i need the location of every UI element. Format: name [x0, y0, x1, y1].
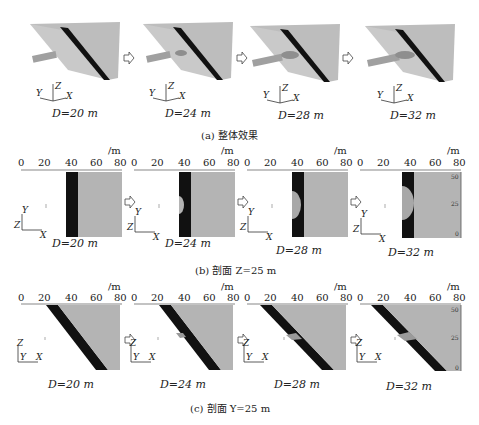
- axis-triad-icon: Z Y X: [377, 84, 417, 106]
- caption-b: (b) 剖面 Z=25 m: [195, 262, 276, 277]
- svg-text:40: 40: [178, 292, 191, 303]
- svg-text:Y: Y: [20, 352, 27, 362]
- svg-text:0: 0: [131, 292, 137, 303]
- panel-label: D=20 m: [52, 107, 98, 120]
- svg-text:0: 0: [244, 292, 250, 303]
- svg-text:0: 0: [455, 230, 459, 237]
- svg-text:25: 25: [451, 334, 459, 341]
- svg-text:Y: Y: [149, 88, 156, 98]
- panel-label: D=24 m: [165, 237, 211, 250]
- svg-text:/m: /m: [221, 281, 234, 292]
- svg-text:25: 25: [451, 200, 459, 207]
- svg-text:80: 80: [227, 157, 240, 168]
- svg-text:Y: Y: [361, 209, 368, 219]
- svg-text:X: X: [152, 232, 160, 242]
- panel-label: D=32 m: [388, 246, 434, 259]
- svg-text:60: 60: [429, 292, 442, 303]
- svg-text:80: 80: [453, 292, 466, 303]
- svg-text:Z: Z: [352, 224, 360, 234]
- panel-label: D=20 m: [52, 237, 98, 250]
- svg-text:Y: Y: [246, 352, 253, 362]
- svg-text:Z: Z: [129, 338, 137, 348]
- svg-text:Y: Y: [248, 207, 255, 217]
- svg-text:Y: Y: [359, 352, 366, 362]
- svg-text:/m: /m: [447, 145, 460, 156]
- panel-label: D=32 m: [390, 109, 436, 122]
- svg-text:X: X: [292, 93, 300, 103]
- svg-text:X: X: [265, 232, 273, 242]
- panel-label: D=24 m: [160, 378, 206, 391]
- svg-text:Y: Y: [263, 90, 270, 100]
- panel-label: D=28 m: [276, 244, 322, 257]
- svg-text:Z: Z: [239, 222, 247, 232]
- svg-text:80: 80: [114, 157, 127, 168]
- caption-a: (a) 整体效果: [201, 127, 258, 142]
- svg-text:20: 20: [377, 292, 390, 303]
- panel-label: D=32 m: [386, 380, 432, 393]
- svg-text:80: 80: [453, 157, 466, 168]
- svg-text:20: 20: [377, 157, 390, 168]
- arrow-right-icon: [350, 195, 362, 209]
- svg-text:20: 20: [38, 157, 51, 168]
- row-c-panel-2: /m 0 20 40 60 80: [131, 285, 241, 385]
- svg-text:X: X: [39, 230, 47, 240]
- axis-triad-icon: Z Y X: [263, 84, 303, 106]
- svg-text:50: 50: [451, 173, 459, 180]
- caption-c: (c) 剖面 Y=25 m: [190, 400, 270, 415]
- svg-text:40: 40: [404, 157, 417, 168]
- svg-text:Z: Z: [281, 83, 289, 93]
- svg-text:80: 80: [340, 157, 353, 168]
- svg-text:20: 20: [38, 292, 51, 303]
- svg-text:Y: Y: [377, 90, 384, 100]
- svg-text:0: 0: [357, 157, 363, 168]
- svg-text:80: 80: [114, 292, 127, 303]
- svg-text:20: 20: [264, 157, 277, 168]
- svg-text:X: X: [406, 93, 414, 103]
- panel-label: D=24 m: [165, 107, 211, 120]
- svg-text:0: 0: [244, 157, 250, 168]
- axis-triad-icon: Z Y X: [149, 82, 189, 104]
- svg-text:60: 60: [429, 157, 442, 168]
- svg-text:/m: /m: [334, 281, 347, 292]
- svg-text:/m: /m: [108, 281, 121, 292]
- axis-2d-icon: Y Z X: [240, 210, 276, 238]
- axis-2d-icon: Z Y X: [14, 340, 50, 368]
- row-c-panel-4: /m 0 20 40 60 80 50 25 0: [357, 285, 479, 385]
- svg-text:/m: /m: [334, 145, 347, 156]
- svg-text:Z: Z: [355, 338, 363, 348]
- svg-text:Z: Z: [13, 220, 21, 230]
- svg-text:60: 60: [316, 157, 329, 168]
- svg-text:Y: Y: [135, 207, 142, 217]
- svg-text:60: 60: [90, 292, 103, 303]
- axis-2d-icon: Y Z X: [127, 210, 163, 238]
- svg-text:Z: Z: [54, 81, 62, 91]
- svg-text:40: 40: [65, 292, 78, 303]
- axis-triad-icon: Z Y X: [36, 82, 76, 104]
- svg-text:60: 60: [203, 157, 216, 168]
- svg-text:Z: Z: [395, 83, 403, 93]
- panel-label: D=28 m: [278, 109, 324, 122]
- svg-text:50: 50: [451, 306, 459, 313]
- svg-text:40: 40: [178, 157, 191, 168]
- svg-text:X: X: [35, 352, 43, 362]
- svg-text:/m: /m: [447, 281, 460, 292]
- svg-text:60: 60: [90, 157, 103, 168]
- svg-text:20: 20: [151, 157, 164, 168]
- svg-text:0: 0: [18, 157, 24, 168]
- svg-text:Z: Z: [16, 338, 24, 348]
- panel-label: D=20 m: [48, 378, 94, 391]
- svg-text:80: 80: [340, 292, 353, 303]
- svg-text:40: 40: [291, 292, 304, 303]
- svg-text:Z: Z: [167, 81, 175, 91]
- svg-text:60: 60: [203, 292, 216, 303]
- panel-label: D=28 m: [274, 378, 320, 391]
- svg-text:X: X: [148, 352, 156, 362]
- svg-text:Z: Z: [242, 338, 250, 348]
- svg-text:0: 0: [357, 292, 363, 303]
- svg-text:40: 40: [291, 157, 304, 168]
- axis-2d-icon: Z Y X: [353, 340, 389, 368]
- svg-text:X: X: [374, 352, 382, 362]
- svg-text:20: 20: [151, 292, 164, 303]
- axis-2d-icon: Y Z X: [353, 212, 389, 240]
- svg-text:X: X: [65, 91, 73, 101]
